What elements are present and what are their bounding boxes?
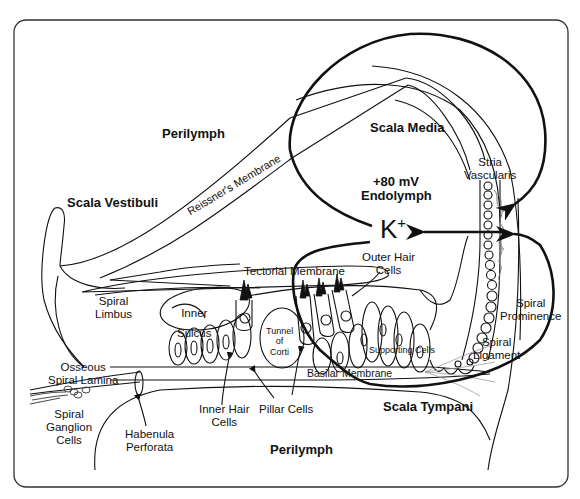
label-scala-tympani: Scala Tympani	[383, 400, 473, 415]
label-habenula-line1: Habenula	[125, 428, 174, 441]
label-ohc-line2: Cells	[362, 264, 415, 277]
spiral-ligament-wall	[488, 198, 519, 470]
label-k-plus: K+	[380, 214, 406, 245]
label-scala-vestibuli: Scala Vestibuli	[67, 196, 158, 211]
label-ganglion-line1: Spiral	[46, 408, 92, 421]
label-ihc-line2: Cells	[199, 416, 250, 429]
label-spiral-prominence: Spiral Prominence	[500, 297, 561, 323]
label-ganglion-line2: Ganglion	[46, 421, 92, 434]
label-ihc-line1: Inner Hair	[199, 403, 250, 416]
k-charge: +	[397, 214, 406, 231]
label-tunnel-line1: Tunnel	[266, 326, 293, 336]
label-tunnel-line2: of	[266, 336, 293, 346]
k-recycling-path	[290, 34, 554, 387]
label-spiral-ganglion-cells: Spiral Ganglion Cells	[46, 408, 92, 448]
label-tunnel-of-corti: Tunnel of Corti	[266, 326, 293, 357]
label-ohc-line1: Outer Hair	[362, 251, 415, 264]
label-prominence-line2: Prominence	[500, 310, 561, 323]
label-endolymph: Endolymph	[361, 189, 432, 204]
label-ligament-line2: Ligament	[473, 349, 520, 362]
label-tunnel-line3: Corti	[266, 347, 293, 357]
label-tectorial-membrane: Tectorial Membrane	[244, 265, 345, 278]
label-scala-media: Scala Media	[370, 121, 444, 136]
label-stria-vascularis: Stria Vascularis	[464, 156, 516, 182]
label-sulcus-line2: Sulcus	[177, 327, 212, 340]
label-prominence-line1: Spiral	[500, 297, 561, 310]
label-inner-hair-cells: Inner Hair Cells	[199, 403, 250, 429]
label-inner-sulcus: Inner Sulcus	[177, 307, 212, 340]
label-osseous-line1: Osseous	[48, 361, 118, 374]
label-spiral-limbus: Spiral Limbus	[95, 295, 132, 321]
label-stria-line2: Vascularis	[464, 169, 516, 182]
label-sulcus-line1: Inner	[177, 307, 212, 320]
label-perilymph-bottom: Perilymph	[270, 443, 333, 458]
label-limbus-line1: Spiral	[95, 295, 132, 308]
label-stria-line1: Stria	[464, 156, 516, 169]
label-habenula-line2: Perforata	[125, 441, 174, 454]
label-perilymph-top: Perilymph	[162, 127, 225, 142]
label-outer-hair-cells: Outer Hair Cells	[362, 251, 415, 277]
label-ligament-line1: Spiral	[473, 336, 520, 349]
label-limbus-line2: Limbus	[95, 308, 132, 321]
label-pillar-cells: Pillar Cells	[259, 403, 313, 416]
label-habenula-perforata: Habenula Perforata	[125, 428, 174, 454]
label-basilar-membrane: Basilar Membrane	[307, 367, 392, 379]
label-ganglion-line3: Cells	[46, 434, 92, 447]
label-osseous-spiral-lamina: Osseous Spiral Lamina	[48, 361, 118, 387]
habenula-perforata	[135, 371, 143, 395]
spiral-prominence-edge	[420, 236, 468, 304]
label-osseous-line2: Spiral Lamina	[48, 374, 118, 387]
k-symbol: K	[380, 214, 397, 244]
label-supporting-cells: Supporting Cells	[369, 345, 435, 355]
label-spiral-ligament: Spiral Ligament	[473, 336, 520, 362]
